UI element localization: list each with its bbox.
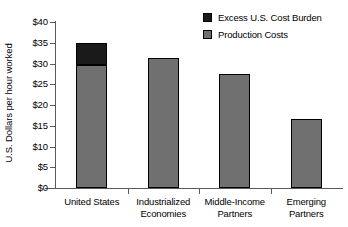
y-axis-tick-label: $0 xyxy=(4,183,48,193)
bar-segment-production-costs xyxy=(291,119,322,188)
y-axis-tick xyxy=(50,105,55,106)
x-axis-category-label-line: Economies xyxy=(128,208,200,220)
bar xyxy=(148,22,179,188)
legend-swatch-icon xyxy=(203,13,212,22)
x-axis-category-label-line: United States xyxy=(56,196,128,208)
y-axis-tick xyxy=(50,147,55,148)
x-axis-category-label: Middle-IncomePartners xyxy=(199,196,271,219)
y-axis-tick xyxy=(50,64,55,65)
x-axis-category-label: United States xyxy=(56,196,128,208)
y-axis-tick-label: $20 xyxy=(4,100,48,110)
y-axis-tick-label: $25 xyxy=(4,79,48,89)
bar xyxy=(219,22,250,188)
x-axis-category-label-line: Partners xyxy=(199,208,271,220)
chart-container: U.S. Dollars per hour worked $0$5$10$15$… xyxy=(0,0,348,227)
bar-segment-production-costs xyxy=(76,65,107,188)
y-axis-tick-label: $10 xyxy=(4,142,48,152)
x-axis-tick xyxy=(199,189,200,194)
y-axis-tick xyxy=(50,84,55,85)
y-axis-tick xyxy=(50,22,55,23)
x-axis-line xyxy=(45,188,343,189)
x-axis-category-label: IndustrializedEconomies xyxy=(128,196,200,219)
y-axis-tick-label: $30 xyxy=(4,59,48,69)
legend-swatch-icon xyxy=(203,30,212,39)
legend-item-label: Excess U.S. Cost Burden xyxy=(218,13,322,23)
y-axis-tick-label: $15 xyxy=(4,121,48,131)
y-axis-line xyxy=(55,21,56,189)
y-axis-tick xyxy=(50,188,55,189)
x-axis-tick xyxy=(271,189,272,194)
bar-segment-excess-cost-burden xyxy=(76,43,107,65)
bar xyxy=(291,22,322,188)
bar xyxy=(76,22,107,188)
y-axis-tick xyxy=(50,167,55,168)
legend-item-label: Production Costs xyxy=(218,30,288,40)
y-axis-tick-label: $40 xyxy=(4,17,48,27)
x-axis-category-label-line: Middle-Income xyxy=(199,196,271,208)
x-axis-category-label: EmergingPartners xyxy=(271,196,343,219)
bar-segment-production-costs xyxy=(148,58,179,188)
x-axis-tick xyxy=(128,189,129,194)
x-axis-category-label-line: Industrialized xyxy=(128,196,200,208)
x-axis-category-label-line: Emerging xyxy=(271,196,343,208)
y-axis-tick-label: $35 xyxy=(4,38,48,48)
x-axis-category-label-line: Partners xyxy=(271,208,343,220)
chart-legend: Excess U.S. Cost BurdenProduction Costs xyxy=(203,9,348,43)
legend-item: Production Costs xyxy=(203,26,348,43)
legend-item: Excess U.S. Cost Burden xyxy=(203,9,348,26)
y-axis-tick xyxy=(50,126,55,127)
y-axis-tick-label: $5 xyxy=(4,162,48,172)
bar-segment-production-costs xyxy=(219,74,250,188)
y-axis-tick xyxy=(50,43,55,44)
